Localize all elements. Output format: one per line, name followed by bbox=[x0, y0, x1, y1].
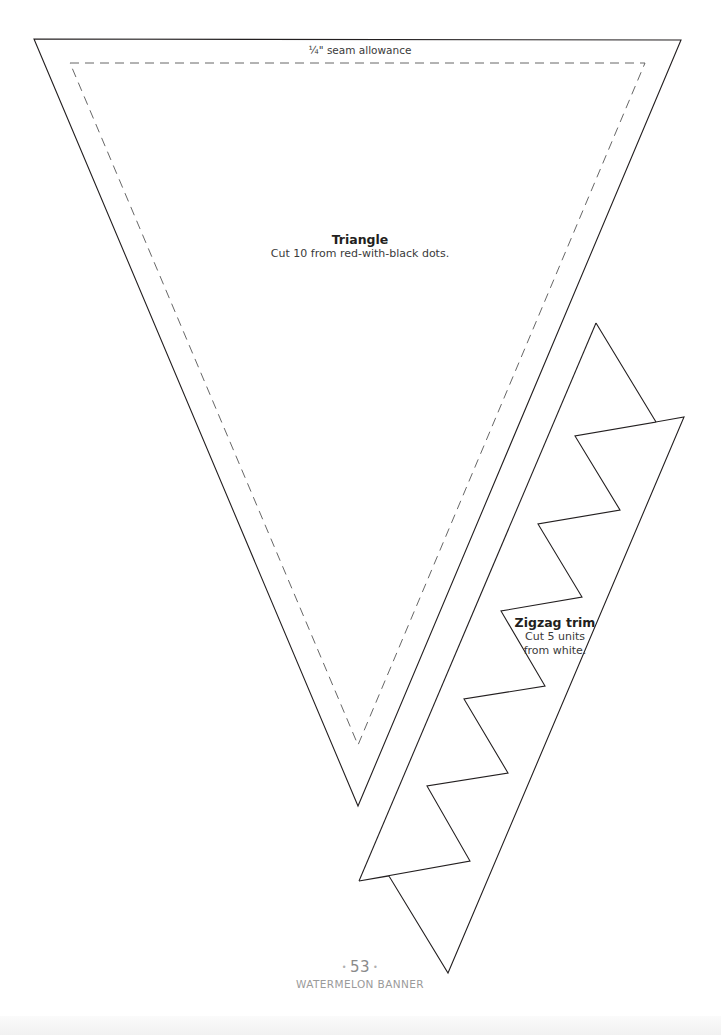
page-footer: •53• WATERMELON BANNER bbox=[230, 958, 490, 990]
triangle-title: Triangle bbox=[240, 232, 480, 247]
zigzag-band-edges bbox=[0, 0, 721, 1035]
section-title: WATERMELON BANNER bbox=[230, 978, 490, 990]
triangle-label: Triangle Cut 10 from red-with-black dots… bbox=[240, 232, 480, 260]
separator-dot-left: • bbox=[342, 963, 347, 972]
seam-allowance-label: ¼" seam allowance bbox=[260, 44, 460, 57]
page-bottom-edge bbox=[0, 1016, 721, 1035]
zigzag-trim-instruction-1: Cut 5 units bbox=[505, 630, 605, 644]
zigzag-trim-label: Zigzag trim Cut 5 units from white. bbox=[505, 615, 605, 658]
triangle-instruction: Cut 10 from red-with-black dots. bbox=[240, 247, 480, 260]
page-number: •53• bbox=[230, 958, 490, 976]
page-number-value: 53 bbox=[350, 958, 370, 976]
separator-dot-right: • bbox=[373, 963, 378, 972]
pattern-page: ¼" seam allowance Triangle Cut 10 from r… bbox=[0, 0, 721, 1035]
zigzag-trim-title: Zigzag trim bbox=[505, 615, 605, 630]
zigzag-trim-instruction-2: from white. bbox=[505, 644, 605, 658]
